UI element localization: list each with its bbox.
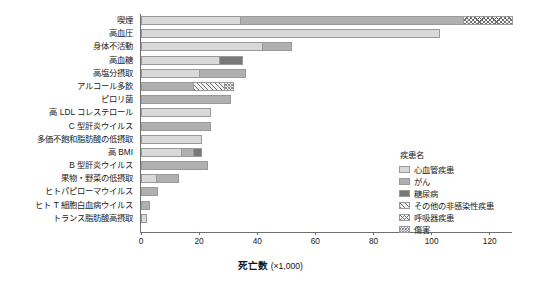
bar-segment-cancer: [142, 202, 149, 209]
x-axis-title-unit: (×1,000): [271, 261, 303, 271]
category-label: 果物・野菜の低摂取: [0, 172, 137, 185]
legend-swatch-cvd: [399, 166, 410, 173]
stacked-bar[interactable]: [141, 187, 158, 196]
bar-row: [141, 27, 513, 40]
bar-segment-resp: [463, 17, 512, 24]
category-label: ヒト T 細胞白血病ウイルス: [0, 199, 137, 212]
stacked-bar[interactable]: [141, 95, 231, 104]
bar-segment-cvd: [142, 215, 146, 222]
bar-segment-cancer: [181, 149, 192, 156]
bar-segment-cancer: [262, 43, 291, 50]
legend-item-injury[interactable]: 傷害: [399, 223, 494, 235]
x-tick-label: 20: [195, 236, 204, 246]
category-label: 高塩分摂取: [0, 67, 137, 80]
category-label: C 型肝炎ウイルス: [0, 120, 137, 133]
bar-segment-cvd: [142, 136, 201, 143]
bar-row: [141, 40, 513, 53]
category-label: アルコール多飲: [0, 80, 137, 93]
stacked-bar[interactable]: [141, 42, 292, 51]
legend-item-cvd[interactable]: 心血管疾患: [399, 163, 494, 175]
category-label: ピロリ菌: [0, 93, 137, 106]
x-tick-label: 40: [253, 236, 262, 246]
x-tick: [199, 232, 200, 235]
stacked-bar[interactable]: [141, 122, 211, 131]
stacked-bar[interactable]: [141, 135, 202, 144]
category-label: トランス脂肪酸高摂取: [0, 212, 137, 225]
legend-label: 呼吸器疾患: [414, 211, 454, 223]
bar-segment-other: [193, 83, 224, 90]
category-label: 身体不活動: [0, 40, 137, 53]
bar-segment-cvd: [142, 175, 156, 182]
category-label: B 型肝炎ウイルス: [0, 159, 137, 172]
category-label: 高血圧: [0, 27, 137, 40]
legend-swatch-cancer: [399, 178, 410, 185]
legend-item-resp[interactable]: 呼吸器疾患: [399, 211, 494, 223]
legend-swatch-other: [399, 202, 410, 209]
legend-label: がん: [414, 175, 430, 187]
legend: 疾患名 心血管疾患がん糖尿病その他の非感染性疾患呼吸器疾患傷害: [399, 148, 494, 235]
legend-swatch-resp: [399, 214, 410, 221]
legend-swatch-injury: [399, 226, 410, 233]
stacked-bar[interactable]: [141, 56, 243, 65]
bar-segment-injury: [224, 83, 233, 90]
bar-segment-cancer: [240, 17, 463, 24]
bar-row: [141, 93, 513, 106]
bar-segment-cvd: [142, 17, 240, 24]
stacked-bar[interactable]: [141, 108, 211, 117]
bar-segment-cvd: [142, 70, 199, 77]
bar-row: [141, 54, 513, 67]
bar-segment-cvd: [142, 57, 219, 64]
bar-segment-cancer: [142, 96, 230, 103]
category-label: 高 LDL コレステロール: [0, 106, 137, 119]
bar-segment-cancer: [199, 70, 245, 77]
bar-segment-cvd: [142, 30, 439, 37]
y-axis-category-labels: 喫煙高血圧身体不活動高血糖高塩分摂取アルコール多飲ピロリ菌高 LDL コレステロ…: [0, 14, 137, 225]
category-label: 高 BMI: [0, 146, 137, 159]
legend-title: 疾患名: [399, 148, 494, 160]
stacked-bar[interactable]: [141, 29, 440, 38]
bar-row: [141, 133, 513, 146]
legend-item-cancer[interactable]: がん: [399, 175, 494, 187]
legend-label: 糖尿病: [414, 187, 438, 199]
stacked-bar[interactable]: [141, 161, 208, 170]
bar-segment-cancer: [156, 175, 178, 182]
legend-item-diabetes[interactable]: 糖尿病: [399, 187, 494, 199]
bar-segment-cancer: [142, 162, 207, 169]
bar-segment-cvd: [142, 43, 262, 50]
x-tick-label: 100: [425, 236, 439, 246]
stacked-bar[interactable]: [141, 69, 246, 78]
y-axis-line: [140, 14, 141, 232]
x-tick-label: 60: [311, 236, 320, 246]
bar-segment-cvd: [142, 149, 181, 156]
legend-items: 心血管疾患がん糖尿病その他の非感染性疾患呼吸器疾患傷害: [399, 163, 494, 235]
x-tick: [373, 232, 374, 235]
bar-segment-cvd: [142, 109, 210, 116]
stacked-bar[interactable]: [141, 82, 234, 91]
stacked-bar[interactable]: [141, 174, 179, 183]
bar-segment-diabetes: [193, 149, 201, 156]
mortality-risk-factor-chart: 喫煙高血圧身体不活動高血糖高塩分摂取アルコール多飲ピロリ菌高 LDL コレステロ…: [0, 0, 541, 284]
legend-item-other[interactable]: その他の非感染性疾患: [399, 199, 494, 211]
stacked-bar[interactable]: [141, 201, 150, 210]
legend-swatch-diabetes: [399, 190, 410, 197]
bar-segment-cancer: [142, 123, 210, 130]
bar-segment-diabetes: [219, 57, 242, 64]
category-label: ヒトパピローマウイルス: [0, 185, 137, 198]
bar-row: [141, 120, 513, 133]
category-label: 高血糖: [0, 54, 137, 67]
bar-row: [141, 14, 513, 27]
stacked-bar[interactable]: [141, 214, 147, 223]
x-tick: [315, 232, 316, 235]
x-tick: [141, 232, 142, 235]
x-tick-label: 80: [369, 236, 378, 246]
stacked-bar[interactable]: [141, 148, 202, 157]
bar-segment-cancer: [142, 83, 193, 90]
bar-row: [141, 67, 513, 80]
category-label: 喫煙: [0, 14, 137, 27]
stacked-bar[interactable]: [141, 16, 513, 25]
legend-label: 心血管疾患: [414, 163, 454, 175]
category-label: 多価不飽和脂肪酸の低摂取: [0, 133, 137, 146]
legend-label: その他の非感染性疾患: [414, 199, 494, 211]
x-axis-title-main: 死亡数: [238, 260, 268, 271]
x-tick: [257, 232, 258, 235]
